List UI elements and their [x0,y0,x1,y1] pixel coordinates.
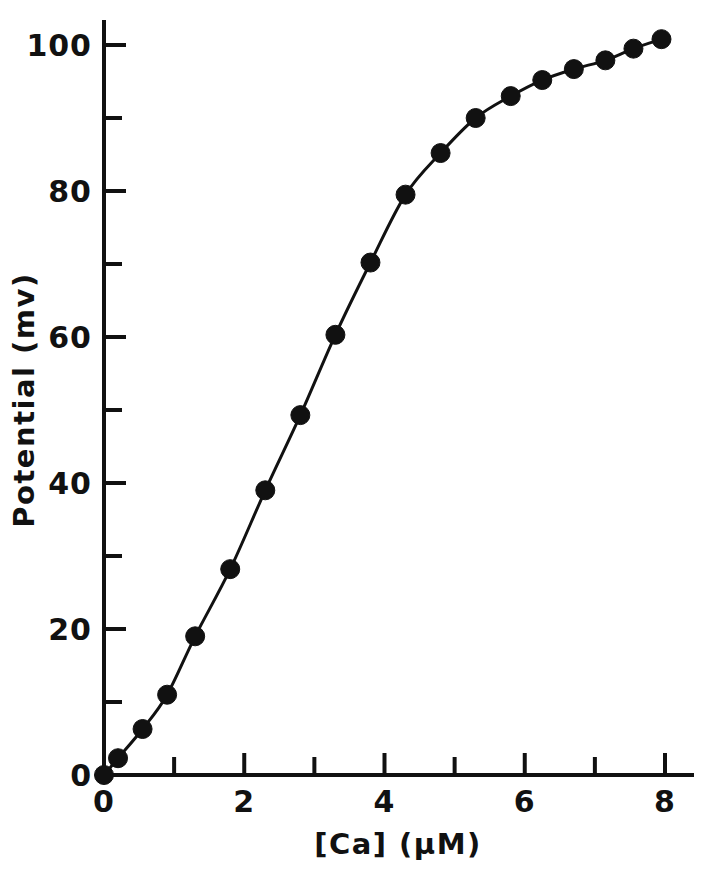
x-axis-title: [Ca] (µM) [314,827,482,861]
y-axis-minor-ticks [104,118,122,702]
data-point [466,109,485,128]
y-tick-label: 60 [48,320,92,355]
data-markers [95,30,671,785]
data-point [431,144,450,163]
data-point [396,185,415,204]
data-point [564,60,583,79]
data-point [652,30,671,49]
figure-container: 020406080100 02468 [Ca] (µM) Potential (… [0,0,707,869]
data-point [326,325,345,344]
data-point [361,253,380,272]
data-point [133,720,152,739]
data-point [596,51,615,70]
x-tick-label: 8 [654,784,676,819]
x-tick-label: 6 [514,784,536,819]
potential-vs-calcium-chart: 020406080100 02468 [Ca] (µM) Potential (… [0,0,707,869]
data-point [624,39,643,58]
y-tick-label: 0 [70,758,92,793]
y-tick-label: 20 [48,612,92,647]
x-tick-label: 4 [374,784,396,819]
data-point [95,766,114,785]
y-tick-label: 100 [26,28,92,63]
data-point [158,685,177,704]
data-point [221,560,240,579]
y-axis-major-ticks [104,45,126,629]
data-point [291,406,310,425]
data-point [186,627,205,646]
y-tick-label: 40 [48,466,92,501]
data-point [501,87,520,106]
data-curve [104,39,661,775]
y-tick-label: 80 [48,174,92,209]
data-point [533,71,552,90]
x-axis-tick-labels: 02468 [93,784,676,819]
y-axis-title: Potential (mv) [7,272,41,527]
data-point [256,481,275,500]
x-tick-label: 0 [93,784,115,819]
data-point [109,749,128,768]
x-tick-label: 2 [233,784,255,819]
